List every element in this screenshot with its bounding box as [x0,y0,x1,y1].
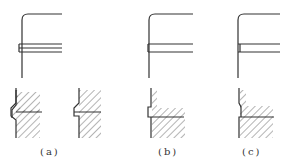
panel-c-top-view [238,14,280,78]
diagram-canvas [0,0,289,166]
panel-b-label: (b) [158,146,178,157]
panel-a-section-right [74,88,101,138]
panel-a-top-view [19,14,62,78]
panel-b-section [148,88,185,138]
panel-b-top-view [148,14,193,78]
panel-a-label: (a) [40,146,60,157]
panel-c-label: (c) [242,146,261,157]
panel-a-section-left [11,88,42,138]
panel-c-section [239,88,274,138]
